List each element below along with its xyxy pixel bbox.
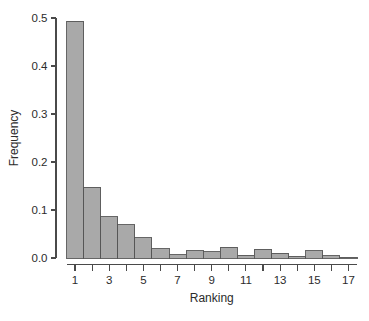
x-axis-tick-label: 11 — [240, 274, 252, 286]
y-axis-tick-label: 0.3 — [32, 108, 48, 120]
chart-canvas: 0.00.10.20.30.40.51357911131517 Ranking … — [0, 0, 369, 321]
histogram-bar — [101, 217, 118, 258]
x-axis-title: Ranking — [190, 291, 234, 305]
x-axis-tick-label: 17 — [342, 274, 355, 286]
y-axis-tick-label: 0.1 — [32, 204, 48, 216]
histogram-bar — [237, 255, 254, 258]
y-axis-tick-label: 0.2 — [32, 156, 48, 168]
histogram-bar — [254, 249, 271, 258]
histogram-bar — [272, 253, 289, 258]
bars-group — [67, 21, 358, 258]
y-axis-title: Frequency — [7, 110, 21, 167]
x-axis-tick-label: 1 — [72, 274, 78, 286]
histogram-bar — [306, 251, 323, 258]
y-axis-tick-label: 0.5 — [32, 12, 48, 24]
histogram-bar — [67, 21, 84, 258]
histogram-bar — [118, 225, 135, 258]
x-axis-tick-label: 3 — [106, 274, 112, 286]
histogram-bar — [135, 238, 152, 258]
histogram-bar — [203, 252, 220, 258]
y-axis-tick-label: 0.4 — [32, 60, 49, 72]
histogram-bar — [152, 249, 169, 258]
histogram-bar — [289, 256, 306, 258]
x-axis-tick-label: 9 — [209, 274, 215, 286]
histogram-figure: 0.00.10.20.30.40.51357911131517 Ranking … — [0, 0, 369, 321]
x-axis-tick-label: 15 — [308, 274, 321, 286]
y-axis-tick-label: 0.0 — [32, 252, 48, 264]
histogram-bar — [340, 257, 357, 258]
histogram-bar — [220, 247, 237, 258]
x-axis-tick-label: 7 — [174, 274, 180, 286]
histogram-bar — [186, 251, 203, 258]
x-axis-tick-label: 13 — [274, 274, 287, 286]
x-axis-tick-label: 5 — [140, 274, 146, 286]
histogram-bar — [169, 255, 186, 258]
histogram-bar — [84, 187, 101, 258]
histogram-bar — [323, 256, 340, 258]
